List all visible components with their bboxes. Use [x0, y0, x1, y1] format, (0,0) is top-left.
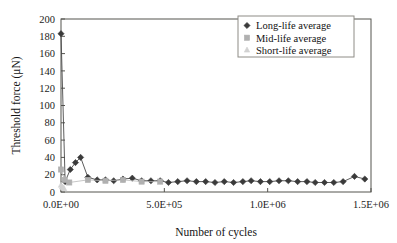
y-axis-title: Threshold force (μN): [10, 56, 23, 154]
marker-square: [244, 35, 249, 40]
marker-diamond: [285, 178, 291, 184]
marker-diamond: [193, 179, 199, 185]
marker-diamond: [321, 179, 327, 185]
series-mid-life-average: [58, 167, 162, 185]
marker-square: [103, 178, 108, 183]
marker-diamond: [312, 179, 318, 185]
marker-square: [67, 180, 72, 185]
x-tick-label: 1.0E+06: [250, 199, 286, 210]
y-tick-label: 120: [39, 83, 55, 94]
marker-diamond: [340, 179, 346, 185]
y-tick-label: 20: [45, 169, 56, 180]
threshold-force-chart: 0204060801001201401601802000.0E+005.0E+0…: [0, 0, 397, 243]
x-tick-label: 5.0E+05: [146, 199, 182, 210]
y-tick-label: 0: [50, 187, 55, 198]
y-tick-label: 140: [39, 66, 55, 77]
legend-label-3: Short-life average: [256, 45, 332, 56]
marker-diamond: [304, 179, 310, 185]
marker-diamond: [240, 179, 246, 185]
x-tick-label: 0.0E+00: [43, 199, 79, 210]
figure-container: 0204060801001201401601802000.0E+005.0E+0…: [0, 0, 397, 243]
y-tick-label: 80: [45, 117, 56, 128]
marker-diamond: [175, 179, 181, 185]
legend-label-2: Mid-life average: [256, 33, 327, 44]
marker-diamond: [267, 179, 273, 185]
marker-diamond: [203, 179, 209, 185]
marker-square: [58, 167, 63, 172]
y-tick-label: 60: [45, 135, 56, 146]
legend-item-2[interactable]: [244, 35, 249, 40]
y-tick-label: 180: [39, 31, 55, 42]
y-tick-label: 100: [39, 100, 55, 111]
marker-square: [139, 179, 144, 184]
marker-diamond: [148, 178, 154, 184]
marker-square: [85, 177, 90, 182]
x-tick-label: 1.5E+06: [353, 199, 389, 210]
marker-square: [158, 179, 163, 184]
y-tick-label: 40: [45, 152, 56, 163]
marker-diamond: [248, 178, 254, 184]
marker-diamond: [212, 179, 218, 185]
marker-diamond: [295, 179, 301, 185]
marker-diamond: [165, 179, 171, 185]
marker-diamond: [331, 179, 337, 185]
marker-diamond: [230, 179, 236, 185]
marker-diamond: [362, 176, 368, 182]
marker-diamond: [184, 178, 190, 184]
marker-diamond: [257, 179, 263, 185]
y-tick-label: 200: [39, 14, 55, 25]
marker-diamond: [221, 179, 227, 185]
marker-diamond: [351, 173, 357, 179]
y-tick-label: 160: [39, 48, 55, 59]
legend-label-1: Long-life average: [256, 20, 331, 31]
marker-diamond: [276, 178, 282, 184]
x-axis-title: Number of cycles: [175, 226, 257, 239]
marker-square: [120, 177, 125, 182]
